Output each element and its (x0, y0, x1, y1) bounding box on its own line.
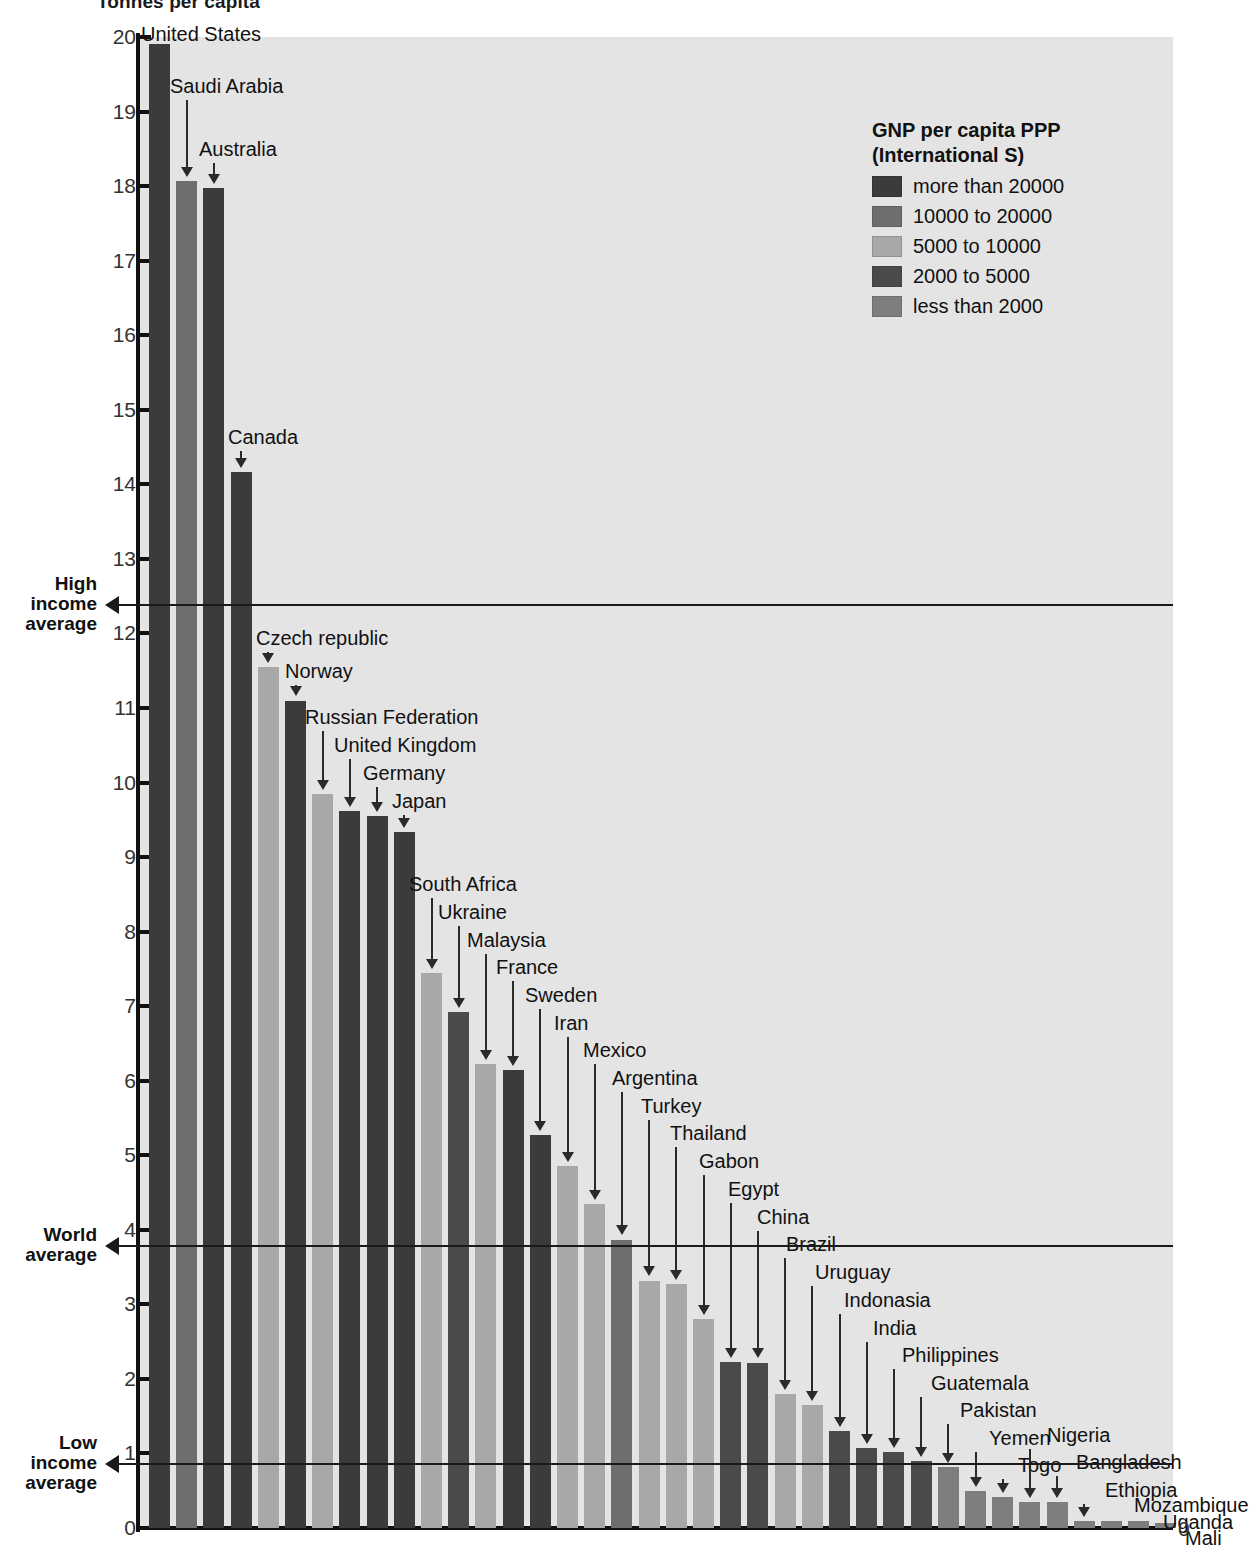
annotation-leader-thailand (675, 1147, 677, 1270)
y-tick-label-14: 14 (113, 473, 136, 494)
annotation-leader-malaysia (485, 954, 487, 1050)
y-tick-label-19: 19 (113, 101, 136, 122)
bar-russian-federation[interactable] (312, 794, 333, 1528)
bar-guatemala[interactable] (911, 1461, 932, 1528)
reference-label-line: average (2, 1473, 97, 1493)
bar-iran[interactable] (557, 1166, 578, 1528)
reference-arrow-world-average (105, 1237, 119, 1255)
bar-thailand[interactable] (666, 1284, 687, 1528)
legend-item[interactable]: 10000 to 20000 (872, 205, 1172, 228)
bar-china[interactable] (747, 1363, 768, 1529)
bar-south-africa[interactable] (421, 973, 442, 1528)
y-tick-label-11: 11 (114, 697, 136, 718)
annotation-label-uruguay: Uruguay (815, 1262, 891, 1282)
bar-ukraine[interactable] (448, 1012, 469, 1528)
legend-items: more than 2000010000 to 200005000 to 100… (872, 175, 1172, 318)
y-tick-label-2: 2 (124, 1368, 136, 1389)
bar-uganda[interactable] (1128, 1521, 1149, 1528)
reference-label-world-average: Worldaverage (2, 1225, 97, 1265)
bar-france[interactable] (503, 1070, 524, 1528)
y-tick-label-1: 1 (124, 1442, 136, 1463)
chart-title: Tonnes per capita (97, 0, 260, 13)
bar-australia[interactable] (203, 188, 224, 1528)
annotation-arrow-ethiopia (1078, 1507, 1090, 1517)
legend-item[interactable]: 2000 to 5000 (872, 265, 1172, 288)
annotation-arrow-bangladesh (1051, 1488, 1063, 1498)
annotation-label-canada: Canada (228, 427, 298, 447)
legend-swatch-icon (872, 296, 902, 317)
annotation-label-pakistan: Pakistan (960, 1400, 1037, 1420)
annotation-leader-south-africa (431, 898, 433, 959)
annotation-leader-france (512, 981, 514, 1056)
y-tick-label-17: 17 (113, 250, 136, 271)
legend-item[interactable]: less than 2000 (872, 295, 1172, 318)
bar-germany[interactable] (367, 816, 388, 1528)
legend-title-line2: (International S) (872, 143, 1172, 168)
bar-czech-republic[interactable] (258, 667, 279, 1528)
bar-brazil[interactable] (775, 1394, 796, 1528)
annotation-arrow-south-africa (426, 959, 438, 969)
annotation-label-bangladesh: Bangladesh (1076, 1452, 1182, 1472)
annotation-label-france: France (496, 957, 558, 977)
bar-togo[interactable] (992, 1497, 1013, 1528)
y-tick-label-13: 13 (113, 548, 136, 569)
y-tick-label-4: 4 (124, 1219, 136, 1240)
bar-yemen[interactable] (965, 1491, 986, 1528)
annotation-leader-gabon (703, 1175, 705, 1305)
legend-item-label: 2000 to 5000 (913, 265, 1030, 288)
bar-pakistan[interactable] (938, 1467, 959, 1528)
annotation-label-russian-federation: Russian Federation (305, 707, 478, 727)
annotation-arrow-united-kingdom (344, 797, 356, 807)
annotation-leader-bangladesh (1056, 1476, 1058, 1488)
annotation-arrow-yemen (970, 1477, 982, 1487)
annotation-arrow-guatemala (915, 1447, 927, 1457)
y-tick-label-10: 10 (113, 772, 136, 793)
legend-swatch-icon (872, 266, 902, 287)
legend-item[interactable]: 5000 to 10000 (872, 235, 1172, 258)
bar-india[interactable] (856, 1448, 877, 1528)
annotation-label-indonasia: Indonasia (844, 1290, 931, 1310)
bar-canada[interactable] (231, 472, 252, 1528)
bar-bangladesh[interactable] (1047, 1502, 1068, 1528)
annotation-arrow-sweden (534, 1121, 546, 1131)
bar-ethiopia[interactable] (1074, 1521, 1095, 1528)
bar-gabon[interactable] (693, 1319, 714, 1528)
annotation-label-united-kingdom: United Kingdom (334, 735, 476, 755)
y-tick-label-9: 9 (124, 846, 136, 867)
bar-saudi-arabia[interactable] (176, 181, 197, 1528)
annotation-label-japan: Japan (392, 791, 447, 811)
annotation-label-philippines: Philippines (902, 1345, 999, 1365)
annotation-arrow-argentina (616, 1225, 628, 1235)
bar-uruguay[interactable] (802, 1405, 823, 1528)
annotation-arrow-nigeria (1024, 1488, 1036, 1498)
annotation-label-mali: Mali (1185, 1528, 1222, 1548)
y-tick-label-8: 8 (124, 921, 136, 942)
bar-argentina[interactable] (611, 1240, 632, 1529)
reference-arrow-high-income-average (105, 596, 119, 614)
annotation-arrow-egypt (725, 1348, 737, 1358)
annotation-leader-sweden (539, 1009, 541, 1121)
reference-label-low-income-average: Lowincomeaverage (2, 1433, 97, 1493)
annotation-leader-united-kingdom (349, 759, 351, 797)
bar-nigeria[interactable] (1019, 1502, 1040, 1528)
reference-label-line: High (2, 574, 97, 594)
bar-united-kingdom[interactable] (339, 811, 360, 1528)
legend-item[interactable]: more than 20000 (872, 175, 1172, 198)
bar-malaysia[interactable] (475, 1064, 496, 1528)
reference-label-high-income-average: Highincomeaverage (2, 574, 97, 634)
annotation-arrow-brazil (779, 1380, 791, 1390)
annotation-leader-china (757, 1231, 759, 1348)
bar-united-states[interactable] (149, 44, 170, 1528)
y-tick-label-20: 20 (113, 26, 136, 47)
bar-norway[interactable] (285, 701, 306, 1529)
bar-turkey[interactable] (639, 1281, 660, 1529)
annotation-arrow-iran (562, 1152, 574, 1162)
bar-sweden[interactable] (530, 1135, 551, 1528)
bar-japan[interactable] (394, 832, 415, 1528)
bar-egypt[interactable] (720, 1362, 741, 1528)
bar-indonasia[interactable] (829, 1431, 850, 1528)
bar-mozambique[interactable] (1101, 1521, 1122, 1528)
annotation-arrow-indonasia (834, 1417, 846, 1427)
bar-mexico[interactable] (584, 1204, 605, 1528)
annotation-label-saudi-arabia: Saudi Arabia (170, 76, 283, 96)
